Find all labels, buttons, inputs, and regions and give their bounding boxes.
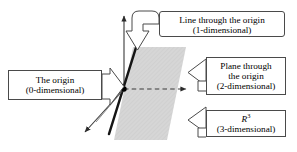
callout-line-title: Line through the origin (160, 15, 284, 25)
r3-exponent: 3 (247, 112, 250, 119)
line-callout-tail (126, 11, 159, 50)
figure-canvas: Line through the origin (1-dimensional) … (0, 0, 297, 152)
plane-callout-tail-notch (198, 81, 206, 91)
callout-plane-subtitle: (2-dimensional) (207, 81, 285, 91)
callout-line-through-origin[interactable]: Line through the origin (1-dimensional) (159, 11, 285, 37)
callout-plane-title-second-line: the origin (207, 71, 285, 81)
callout-r3-subtitle: (3-dimensional) (207, 124, 285, 134)
callout-origin-subtitle: (0-dimensional) (9, 85, 101, 95)
callout-plane-through-origin[interactable]: Plane through the origin (2-dimensional) (206, 57, 286, 95)
callout-r3-symbol: R3 (207, 114, 285, 124)
callout-r-three[interactable]: R3 (3-dimensional) (206, 110, 286, 137)
callout-line-subtitle: (1-dimensional) (160, 25, 284, 35)
callout-the-origin[interactable]: The origin (0-dimensional) (8, 70, 102, 100)
callout-origin-title: The origin (9, 75, 101, 85)
callout-plane-title: Plane through (207, 61, 285, 71)
r3-callout-tail-notch (198, 128, 206, 137)
plane-shape (114, 47, 186, 140)
